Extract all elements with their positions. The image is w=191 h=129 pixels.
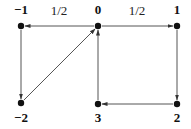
node-dot <box>174 23 180 29</box>
node-label: 0 <box>95 2 102 17</box>
node-dot <box>174 101 180 107</box>
node-dot <box>95 101 101 107</box>
nodes: −101−232 <box>14 2 180 125</box>
edge-n-2-to-n0 <box>24 29 95 100</box>
node-dot <box>18 23 24 29</box>
node-label: −2 <box>14 110 28 125</box>
node-label: 2 <box>174 110 181 125</box>
node-label: −1 <box>14 2 28 17</box>
graph-diagram: 1/21/2 −101−232 <box>0 0 191 129</box>
edge-label: 1/2 <box>129 3 146 18</box>
node-dot <box>95 23 101 29</box>
node-label: 1 <box>174 2 181 17</box>
edge-label: 1/2 <box>51 3 68 18</box>
edges: 1/21/2 <box>21 3 177 104</box>
node-label: 3 <box>95 110 102 125</box>
node-dot <box>18 100 24 106</box>
